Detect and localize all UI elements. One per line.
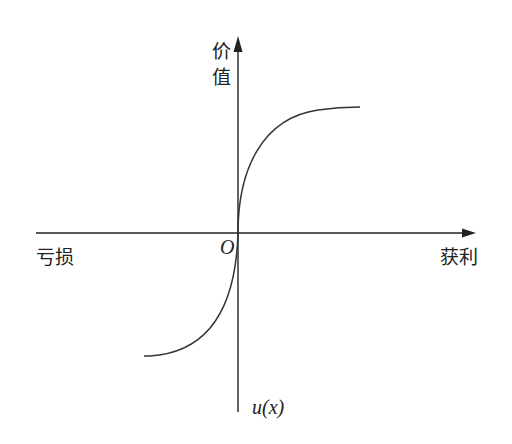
y-axis-label-line1: 价: [212, 36, 231, 63]
y-axis-arrow-icon: [234, 36, 243, 52]
y-axis-label-line2: 值: [212, 62, 231, 89]
origin-label: O: [220, 236, 234, 259]
value-function-diagram: 价 值 亏损 获利 O u(x): [0, 0, 512, 444]
gain-curve: [238, 107, 360, 233]
x-axis-right-label: 获利: [440, 242, 478, 269]
diagram-svg: [0, 0, 512, 444]
curve-label: u(x): [252, 396, 284, 419]
x-axis-arrow-icon: [462, 229, 476, 238]
x-axis-left-label: 亏损: [36, 242, 74, 269]
